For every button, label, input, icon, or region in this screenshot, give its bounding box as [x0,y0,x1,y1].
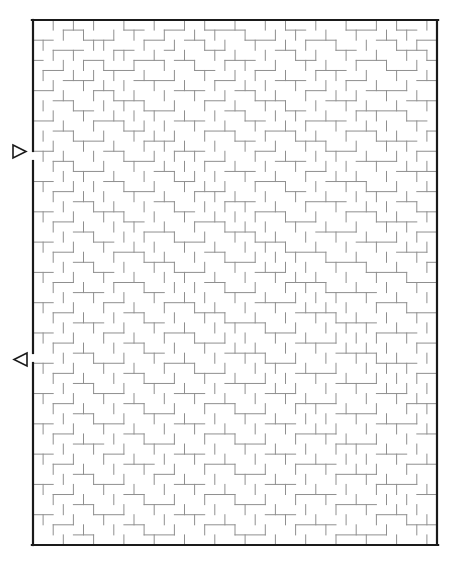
maze-canvas [0,0,462,567]
maze-figure [0,0,462,567]
background [0,0,462,567]
